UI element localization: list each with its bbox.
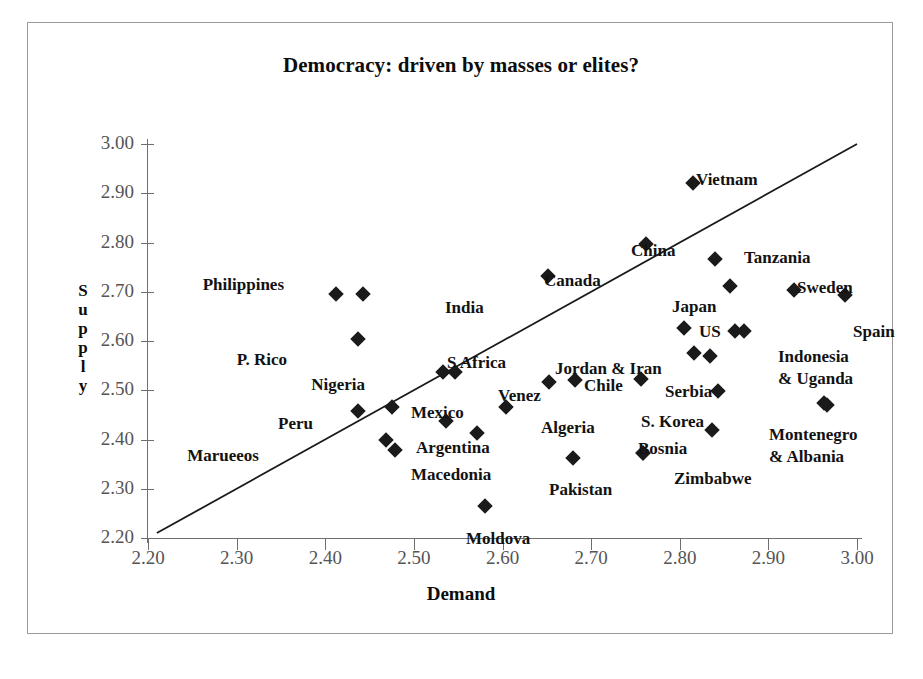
point-label: Philippines bbox=[28, 275, 284, 294]
point-label: & Albania bbox=[769, 447, 844, 466]
mexico-marker bbox=[384, 400, 400, 416]
p-rico-marker bbox=[350, 331, 366, 347]
point-label: India bbox=[445, 298, 484, 317]
iran-marker bbox=[702, 348, 718, 364]
point-label: P. Rico bbox=[28, 350, 287, 369]
s-korea-marker bbox=[710, 383, 726, 399]
x-tick-label: 3.00 bbox=[827, 547, 887, 569]
point-label: Argentina bbox=[416, 438, 490, 457]
india-marker bbox=[356, 286, 372, 302]
peru-marker bbox=[350, 404, 366, 420]
point-label: US bbox=[699, 322, 721, 341]
x-tick-label: 2.60 bbox=[473, 547, 533, 569]
japan-marker bbox=[722, 278, 738, 294]
y-tick-label: 2.80 bbox=[78, 231, 134, 253]
point-label: S. Korea bbox=[641, 412, 704, 431]
point-label: Macedonia bbox=[411, 465, 491, 484]
point-label: Peru bbox=[28, 414, 313, 433]
x-tick-label: 2.70 bbox=[561, 547, 621, 569]
point-label: Indonesia bbox=[778, 347, 849, 366]
chart-frame: Democracy: driven by masses or elites? S… bbox=[27, 22, 893, 634]
chart-title: Democracy: driven by masses or elites? bbox=[28, 53, 894, 78]
point-label: Sweden bbox=[797, 278, 853, 297]
point-label: Moldova bbox=[466, 529, 530, 548]
tanzania-marker bbox=[707, 251, 723, 267]
x-axis-title: Demand bbox=[28, 583, 894, 605]
point-label: Serbia bbox=[665, 382, 712, 401]
us-marker bbox=[676, 320, 692, 336]
point-label: Japan bbox=[672, 297, 716, 316]
point-label: China bbox=[631, 241, 675, 260]
point-label: Vietnam bbox=[696, 170, 758, 189]
point-label: Marueeos bbox=[28, 446, 259, 465]
point-label: Pakistan bbox=[549, 480, 612, 499]
x-tick-label: 2.80 bbox=[650, 547, 710, 569]
y-tick-label: 2.60 bbox=[78, 329, 134, 351]
point-label: Montenegro bbox=[769, 425, 857, 444]
y-tick-label: 2.20 bbox=[78, 526, 134, 548]
x-tick-label: 2.20 bbox=[118, 547, 178, 569]
y-tick-label: 2.30 bbox=[78, 477, 134, 499]
point-label: Mexico bbox=[411, 403, 464, 422]
y-tick-label: 2.90 bbox=[78, 181, 134, 203]
point-label: Algeria bbox=[541, 418, 595, 437]
point-label: Chile bbox=[584, 376, 623, 395]
point-label: Nigeria bbox=[28, 375, 365, 394]
point-label: Spain bbox=[853, 322, 895, 341]
pakistan-marker bbox=[565, 450, 581, 466]
moldova-marker bbox=[477, 498, 493, 514]
point-label: Venez bbox=[498, 386, 541, 405]
point-label: S Africa bbox=[447, 353, 506, 372]
point-label: & Uganda bbox=[778, 369, 853, 388]
philippines-marker bbox=[328, 286, 344, 302]
x-tick-label: 2.40 bbox=[295, 547, 355, 569]
point-label: Canada bbox=[544, 271, 601, 290]
uganda-marker bbox=[737, 323, 753, 339]
y-axis-title-letter: u bbox=[72, 300, 94, 319]
jordan-marker bbox=[686, 346, 702, 362]
y-tick-label: 3.00 bbox=[78, 132, 134, 154]
point-label: Bosnia bbox=[638, 439, 687, 458]
macedonia-marker bbox=[387, 443, 403, 459]
point-label: Tanzania bbox=[744, 248, 810, 267]
bosnia-marker bbox=[704, 422, 720, 438]
point-label: Zimbabwe bbox=[674, 469, 751, 488]
x-tick-label: 2.30 bbox=[207, 547, 267, 569]
x-tick-label: 2.50 bbox=[384, 547, 444, 569]
x-tick-label: 2.90 bbox=[738, 547, 798, 569]
